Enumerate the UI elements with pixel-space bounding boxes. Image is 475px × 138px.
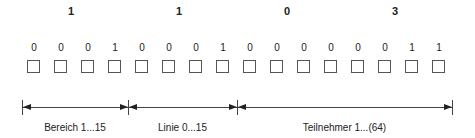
bit-value: 1 — [432, 42, 446, 53]
hex-digit-3: 0 — [277, 5, 297, 17]
arrow-right-icon — [229, 104, 237, 110]
bit-value: 0 — [54, 42, 68, 53]
arrow-left-icon — [129, 104, 137, 110]
bit-value: 0 — [324, 42, 338, 53]
bit-value: 0 — [162, 42, 176, 53]
segment-label-bereich: Bereich 1...15 — [22, 122, 128, 133]
bit-box — [216, 60, 229, 73]
bit-box — [378, 60, 391, 73]
bit-value: 1 — [216, 42, 230, 53]
bit-box — [81, 60, 94, 73]
bit-box — [297, 60, 310, 73]
bit-value: 0 — [270, 42, 284, 53]
bit-value: 0 — [135, 42, 149, 53]
bit-box — [162, 60, 175, 73]
bit-box — [135, 60, 148, 73]
arrow-left-icon — [23, 104, 31, 110]
hex-digit-2: 1 — [169, 5, 189, 17]
bit-value: 0 — [351, 42, 365, 53]
hex-digit-1: 1 — [61, 5, 81, 17]
bit-value: 0 — [297, 42, 311, 53]
bit-box — [432, 60, 445, 73]
bit-value: 1 — [108, 42, 122, 53]
segment-label-linie: Linie 0...15 — [128, 122, 237, 133]
bit-box — [351, 60, 364, 73]
bit-value: 0 — [243, 42, 257, 53]
bit-box — [54, 60, 67, 73]
dimension-tick — [452, 100, 453, 115]
arrow-right-icon — [120, 104, 128, 110]
bit-box — [324, 60, 337, 73]
bit-value: 0 — [81, 42, 95, 53]
bit-box — [405, 60, 418, 73]
arrow-left-icon — [238, 104, 246, 110]
hex-digit-4: 3 — [385, 5, 405, 17]
bit-value: 1 — [405, 42, 419, 53]
bit-value: 0 — [27, 42, 41, 53]
bit-value: 0 — [189, 42, 203, 53]
bit-box — [27, 60, 40, 73]
arrow-right-icon — [444, 104, 452, 110]
bit-value: 0 — [378, 42, 392, 53]
segment-label-teilnehmer: Teilnehmer 1...(64) — [237, 122, 452, 133]
bit-box — [243, 60, 256, 73]
bit-box — [189, 60, 202, 73]
bit-box — [270, 60, 283, 73]
bit-box — [108, 60, 121, 73]
